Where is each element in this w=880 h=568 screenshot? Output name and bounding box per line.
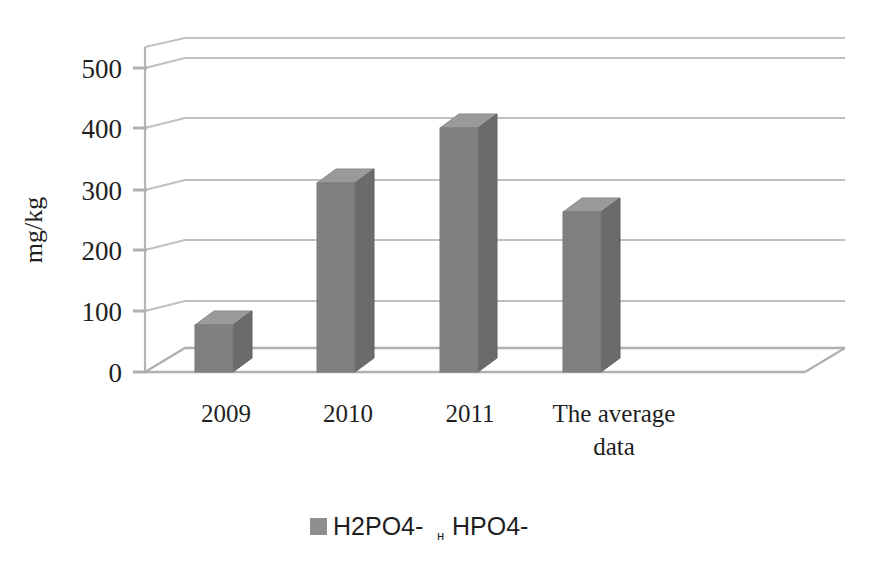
x-label-2010: 2010 <box>323 400 373 427</box>
bar-front-face <box>317 183 355 372</box>
y-tick-label-200: 200 <box>82 236 123 266</box>
chart-legend[interactable]: H2PO4- н HPO4- <box>310 512 528 543</box>
x-label-2009: 2009 <box>201 400 251 427</box>
bar-side-face <box>355 169 374 372</box>
y-tick-label-300: 300 <box>82 176 123 206</box>
x-label-average-line1: The average <box>553 400 676 427</box>
y-axis <box>133 47 147 372</box>
x-label-2011: 2011 <box>445 400 494 427</box>
bar-average-data[interactable] <box>563 198 620 372</box>
y-tick-label-500: 500 <box>82 54 123 84</box>
bar-side-face <box>601 198 620 372</box>
y-tick-label-0: 0 <box>109 358 123 388</box>
x-label-average-line2: data <box>593 433 635 460</box>
chart-canvas: 500 400 300 200 100 0 mg/kg <box>0 0 880 568</box>
y-tick-label-100: 100 <box>82 297 123 327</box>
grid-line-top <box>145 38 845 47</box>
y-tick-labels: 500 400 300 200 100 0 <box>82 54 123 388</box>
chart-figure: 500 400 300 200 100 0 mg/kg <box>0 0 880 568</box>
y-tick-label-400: 400 <box>82 114 123 144</box>
legend-label-tail: HPO4- <box>452 512 528 540</box>
legend-label-main: H2PO4- <box>333 512 423 540</box>
y-axis-title: mg/kg <box>19 197 48 263</box>
grid-line-500 <box>145 58 845 68</box>
legend-label-sub: н <box>437 528 444 543</box>
legend-swatch-icon <box>310 518 327 535</box>
bar-side-face <box>478 114 497 372</box>
bar-2009[interactable] <box>195 311 252 372</box>
bar-front-face <box>195 325 233 372</box>
bar-2010[interactable] <box>317 169 374 372</box>
x-axis-labels: 2009 2010 2011 The average data <box>201 400 675 460</box>
bar-front-face <box>440 128 478 372</box>
bar-2011[interactable] <box>440 114 497 372</box>
bar-front-face <box>563 212 601 372</box>
floor-right-edge <box>805 348 845 372</box>
